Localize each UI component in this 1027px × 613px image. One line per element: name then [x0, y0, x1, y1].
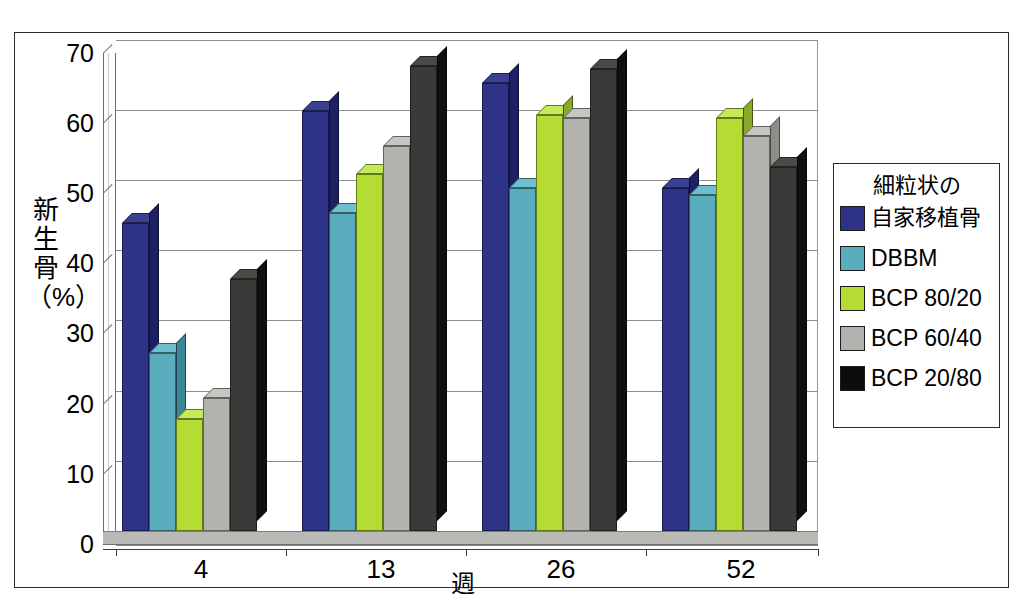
x-tick-label-26: 26: [526, 556, 596, 582]
legend-label-autograft: 自家移植骨: [871, 207, 981, 229]
legend-swatch-dbbm: [840, 246, 865, 271]
x-tick-label-52: 52: [706, 556, 776, 582]
y-axis-title-char-2: 生: [26, 225, 66, 254]
x-tick-label-13: 13: [346, 556, 416, 582]
y-tick-label-20: 20: [42, 392, 94, 417]
legend-item-bcp6040[interactable]: BCP 60/40: [840, 318, 993, 358]
y-tick-label-0: 0: [42, 532, 94, 557]
legend-label-bcp2080: BCP 20/80: [871, 367, 982, 390]
legend-item-autograft[interactable]: 自家移植骨: [840, 198, 993, 238]
cropped-caption-sliver: [16, 601, 1011, 611]
legend-swatch-bcp6040: [840, 326, 865, 351]
legend-label-bcp8020: BCP 80/20: [871, 287, 982, 310]
x-axis-title: 週: [433, 572, 493, 596]
legend-label-dbbm: DBBM: [871, 247, 937, 270]
legend-item-bcp8020[interactable]: BCP 80/20: [840, 278, 993, 318]
legend-label-bcp6040: BCP 60/40: [871, 327, 982, 350]
legend-swatch-bcp2080: [840, 366, 865, 391]
y-tick-label-70: 70: [42, 41, 94, 66]
y-tick-label-10: 10: [42, 462, 94, 487]
chart-legend: 細粒状の 自家移植骨 DBBM BCP 80/20 BCP 60/40 BCP …: [833, 163, 1000, 428]
legend-item-bcp2080[interactable]: BCP 20/80: [840, 358, 993, 398]
y-tick-label-60: 60: [42, 111, 94, 136]
legend-swatch-autograft: [840, 206, 865, 231]
legend-item-dbbm[interactable]: DBBM: [840, 238, 993, 278]
y-axis-title: 新 生 骨 （%）: [26, 196, 66, 312]
y-axis-title-char-4: （%）: [26, 283, 66, 312]
legend-swatch-bcp8020: [840, 286, 865, 311]
y-axis-title-char-1: 新: [26, 196, 66, 225]
legend-title: 細粒状の: [840, 174, 993, 197]
x-tick-label-4: 4: [166, 556, 236, 582]
y-axis-title-char-3: 骨: [26, 254, 66, 283]
y-tick-label-30: 30: [42, 321, 94, 346]
